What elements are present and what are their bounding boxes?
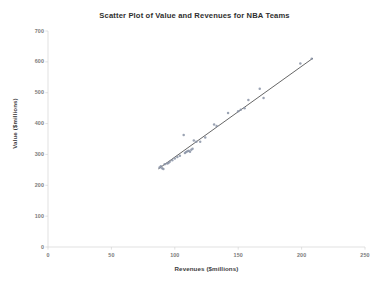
x-axis-title: Revenues ($millions) [48, 265, 365, 272]
axis-lines [48, 31, 365, 247]
y-tick-label: 700 [18, 28, 44, 34]
plot-area [48, 31, 365, 247]
x-tick-label: 150 [223, 252, 253, 258]
x-tick-label: 50 [96, 252, 126, 258]
scatter-chart-figure: Scatter Plot of Value and Revenues for N… [0, 0, 389, 288]
y-tick-label: 500 [18, 89, 44, 95]
y-tick-label: 0 [18, 244, 44, 250]
x-axis-tick-labels: 050100150200250 [48, 252, 365, 264]
y-tick-label: 600 [18, 58, 44, 64]
plot-canvas [48, 31, 365, 247]
x-tick-label: 250 [350, 252, 380, 258]
y-tick-label: 100 [18, 213, 44, 219]
axis-ticks [45, 31, 365, 250]
trendline [158, 58, 313, 169]
y-axis-tick-labels: 0100200300400500600700 [14, 31, 44, 247]
x-tick-label: 100 [160, 252, 190, 258]
y-tick-label: 200 [18, 182, 44, 188]
x-tick-label: 200 [287, 252, 317, 258]
x-tick-label: 0 [33, 252, 63, 258]
y-tick-label: 400 [18, 120, 44, 126]
chart-title: Scatter Plot of Value and Revenues for N… [0, 11, 389, 20]
y-tick-label: 300 [18, 151, 44, 157]
